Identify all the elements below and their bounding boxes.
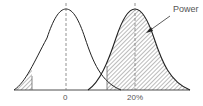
power-diagram: Power 0 20% <box>0 0 203 106</box>
power-region <box>88 9 190 90</box>
power-arrow <box>149 16 170 31</box>
x-label-20: 20% <box>127 93 143 102</box>
left-tail-region <box>14 9 121 90</box>
x-label-0: 0 <box>63 93 68 102</box>
power-label: Power <box>173 4 199 14</box>
